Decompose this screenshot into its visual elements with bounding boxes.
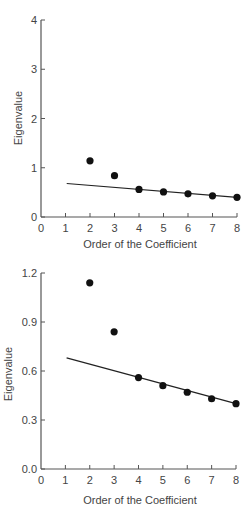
y-axis: 01234 <box>31 14 45 223</box>
x-axis-label: Order of the Coefficient <box>83 494 197 506</box>
x-tick-label: 4 <box>135 474 141 486</box>
x-tick-label: 5 <box>160 474 166 486</box>
eigenvalue-chart-bottom: 0.00.30.60.91.2 012345678 Order of the C… <box>0 254 252 508</box>
x-tick-label: 6 <box>185 222 191 234</box>
x-tick-label: 3 <box>111 222 117 234</box>
data-point <box>159 382 166 389</box>
data-point <box>184 190 191 197</box>
x-tick-label: 1 <box>62 222 68 234</box>
y-tick-label: 1.2 <box>22 267 37 279</box>
x-axis-label: Order of the Coefficient <box>83 238 197 250</box>
y-axis-label: Eigenvalue <box>12 91 24 145</box>
y-tick-label: 4 <box>31 14 37 26</box>
y-tick-label: 0.3 <box>22 414 37 426</box>
chart-top-svg: 01234 012345678 Order of the Coefficient… <box>0 0 252 254</box>
y-tick-label: 0 <box>31 211 37 223</box>
x-tick-label: 2 <box>87 474 93 486</box>
y-tick-label: 0.0 <box>22 463 37 475</box>
x-tick-label: 6 <box>184 474 190 486</box>
y-axis-label: Eigenvalue <box>2 347 14 401</box>
x-tick-label: 5 <box>160 222 166 234</box>
chart-bottom-svg: 0.00.30.60.91.2 012345678 Order of the C… <box>0 254 252 508</box>
x-tick-label: 7 <box>209 474 215 486</box>
x-tick-label: 8 <box>233 474 239 486</box>
x-tick-label: 2 <box>87 222 93 234</box>
data-point <box>208 395 215 402</box>
x-axis: 012345678 <box>38 465 239 486</box>
data-point <box>184 389 191 396</box>
x-tick-label: 1 <box>62 474 68 486</box>
data-point <box>233 194 240 201</box>
x-tick-label: 0 <box>38 222 44 234</box>
data-point <box>111 172 118 179</box>
y-tick-label: 2 <box>31 113 37 125</box>
data-point <box>160 188 167 195</box>
data-point <box>111 328 118 335</box>
y-tick-label: 3 <box>31 63 37 75</box>
data-point <box>135 374 142 381</box>
plot-area <box>67 279 240 407</box>
x-tick-label: 7 <box>209 222 215 234</box>
plot-area <box>67 157 241 201</box>
data-point <box>135 186 142 193</box>
x-tick-label: 3 <box>111 474 117 486</box>
y-tick-label: 0.9 <box>22 316 37 328</box>
data-point <box>232 400 239 407</box>
data-point <box>209 192 216 199</box>
x-tick-label: 0 <box>38 474 44 486</box>
x-axis: 012345678 <box>38 213 240 234</box>
y-tick-label: 1 <box>31 162 37 174</box>
y-tick-label: 0.6 <box>22 365 37 377</box>
x-tick-label: 4 <box>136 222 142 234</box>
data-point <box>86 157 93 164</box>
eigenvalue-chart-top: 01234 012345678 Order of the Coefficient… <box>0 0 252 254</box>
x-tick-label: 8 <box>234 222 240 234</box>
data-point <box>86 279 93 286</box>
y-axis: 0.00.30.60.91.2 <box>22 267 45 475</box>
